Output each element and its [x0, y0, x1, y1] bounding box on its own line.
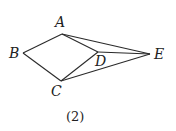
vertex-label-e: E	[153, 46, 164, 62]
figure-caption: (2)	[66, 109, 84, 124]
geometry-figure: A B C D E (2)	[0, 0, 176, 131]
segment-ad	[62, 34, 98, 52]
vertex-label-a: A	[53, 14, 65, 30]
segment-cd	[61, 52, 98, 81]
figure-edges	[23, 34, 150, 81]
vertex-label-b: B	[8, 45, 19, 61]
segment-ae	[62, 34, 150, 54]
segment-ab	[23, 34, 62, 53]
vertex-label-d: D	[94, 53, 106, 69]
vertex-label-c: C	[51, 83, 62, 99]
segment-bc	[23, 53, 61, 81]
